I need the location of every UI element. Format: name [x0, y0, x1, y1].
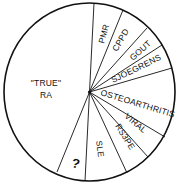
label-true: "TRUE" — [31, 78, 61, 88]
label-ra: RA — [40, 90, 52, 100]
pie-diagram: "TRUE" RA PMR CPPD GOUT SJOEGRENS OSTEOA… — [0, 0, 181, 184]
pie-center-dot — [88, 90, 91, 93]
